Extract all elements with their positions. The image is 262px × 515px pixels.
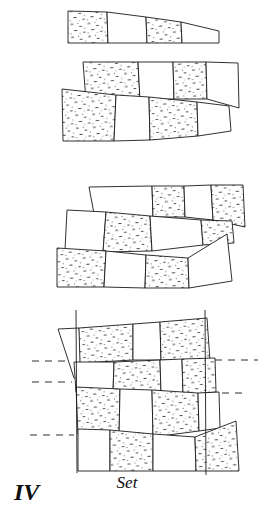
block-stippled: [182, 358, 216, 395]
block-plain: [197, 102, 231, 136]
block-plain: [160, 359, 183, 395]
block-plain: [65, 210, 106, 252]
block-plain: [107, 12, 147, 43]
block-stippled: [149, 97, 198, 140]
block-stippled: [152, 186, 185, 217]
block-stippled: [79, 324, 133, 363]
block-stippled: [110, 430, 153, 471]
block-plain: [78, 429, 110, 471]
block-stippled: [68, 11, 108, 43]
block-stippled: [160, 318, 210, 361]
block-plain: [153, 434, 196, 471]
block-plain: [138, 62, 174, 100]
block-stippled: [113, 360, 161, 393]
figure-canvas: IV Set: [0, 0, 262, 515]
block-stippled: [62, 89, 116, 141]
block-plain: [181, 22, 219, 43]
block-stippled: [57, 248, 106, 287]
block-stippled: [103, 212, 152, 252]
block-stippled: [152, 390, 199, 437]
block-plain: [104, 251, 146, 288]
block-stippled: [173, 62, 207, 99]
block-plain: [198, 392, 220, 431]
block-plain: [206, 62, 239, 108]
panel-1: [68, 11, 219, 43]
figure-number-label: IV: [13, 479, 41, 505]
block-stippled: [146, 17, 182, 43]
block-plain: [184, 185, 213, 220]
block-plain: [114, 95, 150, 141]
block-plain: [133, 322, 161, 360]
stratigraphic-set-diagram: IV Set: [0, 0, 262, 515]
block-plain: [150, 216, 203, 251]
set-caption-label: Set: [117, 473, 139, 492]
panel-4: [30, 310, 258, 475]
panel-3: [57, 185, 245, 288]
panel-2: [62, 62, 239, 141]
block-plain: [119, 389, 153, 437]
block-stippled: [145, 255, 189, 288]
